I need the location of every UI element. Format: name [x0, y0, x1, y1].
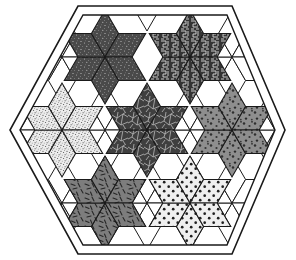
quilt-figure — [0, 0, 296, 260]
quilt-canvas — [0, 0, 296, 260]
